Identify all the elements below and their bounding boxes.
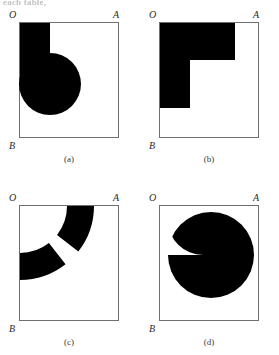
panel-a-label-origin: O [9,10,16,20]
panel-c-shape [19,205,119,321]
panel-d-label-a: A [253,193,259,203]
panel-b-caption: (b) [159,155,259,164]
panel-d-caption: (d) [159,338,259,347]
panel-c-label-a: A [113,193,119,203]
panel-b: O A B (b) [159,22,259,170]
panel-b-label-origin: O [149,10,156,20]
panel-a-label-a: A [113,10,119,20]
panel-a: O A B (a) [19,22,119,170]
panel-b-label-b: B [149,141,155,151]
panel-b-shape [159,22,259,138]
panel-c-label-b: B [9,324,15,334]
top-text-remnant: each table, [3,0,123,7]
panel-c-label-origin: O [9,193,16,203]
panel-d-label-b: B [149,324,155,334]
panel-a-label-b: B [9,141,15,151]
panel-c-caption: (c) [19,338,119,347]
panel-d: O A B (d) [159,205,259,353]
panel-c: O A B (c) [19,205,119,353]
panel-d-shape [159,205,259,321]
panel-d-label-origin: O [149,193,156,203]
panel-a-caption: (a) [19,155,119,164]
panel-a-shape [19,22,119,138]
panel-b-label-a: A [253,10,259,20]
figure-root: each table, O A B (a) O A B (b) [0,0,279,355]
